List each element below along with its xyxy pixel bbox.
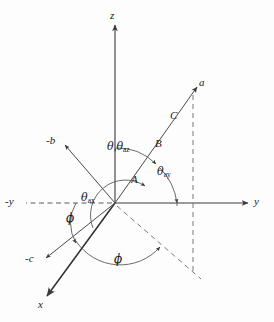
projection-plane-line	[117, 206, 201, 279]
angle-label-phi-upper: ϕ	[66, 212, 74, 224]
segment-label-a: A	[131, 174, 138, 185]
axis-label-negative-y: -y	[5, 196, 14, 207]
diagram-canvas	[0, 0, 274, 322]
angle-label-theta-az: θ,θaz	[107, 141, 130, 152]
theta-ay-glyph: θ	[157, 165, 164, 178]
vector-diagram-figure: z y x -y a -b -c A B C θ,θaz θay θax ϕ ϕ	[0, 0, 274, 322]
angle-label-theta-ay: θay	[157, 166, 171, 177]
axis-label-z: z	[110, 10, 114, 21]
theta-az-subscript: az	[123, 145, 130, 154]
angle-label-theta-ax: θax	[81, 192, 95, 203]
vector-label-negative-c: -c	[25, 253, 34, 264]
angle-label-phi-lower: ϕ	[114, 253, 122, 265]
vector-label-negative-b: -b	[46, 135, 55, 146]
theta-ay-subscript: ay	[164, 170, 171, 179]
vector-label-a: a	[199, 77, 205, 88]
axis-label-x: x	[38, 299, 43, 310]
theta-ax-subscript: ax	[88, 196, 95, 205]
angle-arc-theta-ax	[91, 180, 145, 228]
segment-label-b: B	[155, 138, 162, 149]
axis-label-y: y	[254, 196, 259, 207]
theta-glyph: θ	[107, 140, 114, 153]
theta-ax-glyph: θ	[81, 191, 88, 204]
segment-label-c: C	[170, 110, 177, 121]
theta-az-glyph: θ	[116, 140, 123, 153]
